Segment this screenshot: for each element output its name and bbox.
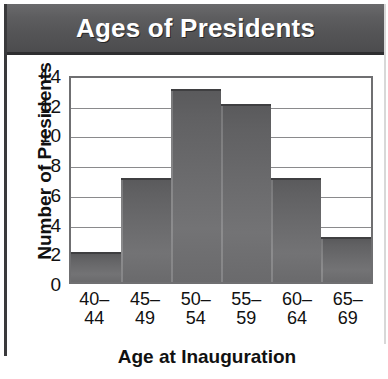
bar xyxy=(171,89,221,282)
x-axis-tick-label-line: 54 xyxy=(170,309,221,328)
y-axis-tick-label: 10 xyxy=(40,126,61,145)
y-axis-tick-label: 12 xyxy=(40,96,61,115)
plot-frame xyxy=(69,76,373,284)
bar xyxy=(121,178,171,282)
bar-series xyxy=(71,78,371,282)
x-axis-tick-label-line: 55– xyxy=(221,290,272,309)
x-axis-tick-label-line: 44 xyxy=(69,309,120,328)
x-axis-tick-label-line: 60– xyxy=(272,290,323,309)
chart-area: Number of Presidents 14121086420 40–4445… xyxy=(7,58,384,376)
x-axis-tick-label: 50–54 xyxy=(170,290,221,329)
x-axis-tick-label-line: 50– xyxy=(170,290,221,309)
bar xyxy=(71,252,121,282)
x-axis-tick-label: 65–69 xyxy=(322,290,373,329)
x-axis-tick-label-line: 45– xyxy=(120,290,171,309)
y-axis-tick-labels: 14121086420 xyxy=(37,76,67,284)
x-axis-tick-label-line: 59 xyxy=(221,309,272,328)
chart-title: Ages of Presidents xyxy=(76,13,315,44)
x-axis-title: Age at Inauguration xyxy=(37,346,377,368)
x-axis-tick-labels: 40–4445–4950–5455–5960–6465–69 xyxy=(69,290,373,329)
y-axis-tick-label: 0 xyxy=(50,275,61,294)
x-axis-tick-label: 55–59 xyxy=(221,290,272,329)
x-axis-tick-label: 45–49 xyxy=(120,290,171,329)
y-axis-tick-label: 6 xyxy=(50,185,61,204)
bar xyxy=(321,237,371,282)
x-axis-tick-label-line: 65– xyxy=(322,290,373,309)
x-axis-tick-label-line: 64 xyxy=(272,309,323,328)
bar xyxy=(271,178,321,282)
x-axis-tick-label: 60–64 xyxy=(272,290,323,329)
chart-title-banner: Ages of Presidents xyxy=(7,4,384,55)
y-axis-tick-label: 8 xyxy=(50,156,61,175)
plot-wrapper: 14121086420 xyxy=(37,76,377,284)
y-axis-tick-label: 4 xyxy=(50,215,61,234)
x-axis-tick-label: 40–44 xyxy=(69,290,120,329)
bar xyxy=(221,104,271,282)
x-axis-tick-label-line: 40– xyxy=(69,290,120,309)
card-right-border xyxy=(384,4,386,344)
y-axis-tick-label: 2 xyxy=(50,245,61,264)
x-axis-tick-label-line: 69 xyxy=(322,309,373,328)
chart-card: Ages of Presidents Number of Presidents … xyxy=(0,0,388,379)
x-axis-tick-label-line: 49 xyxy=(120,309,171,328)
y-axis-tick-label: 14 xyxy=(40,67,61,86)
